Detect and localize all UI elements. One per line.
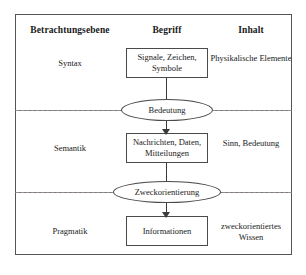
concept-box-semantik: Nachrichten, Daten, Mitteilungen <box>126 133 208 163</box>
transition-ellipse-bedeutung: Bedeutung <box>121 99 213 121</box>
connector-line-syntax-to-bedeutung <box>166 78 167 99</box>
connector-line-semantik-to-zweckorientierung <box>166 163 167 181</box>
column-header-begriff: Begriff <box>124 25 210 35</box>
semiotics-levels-diagram: Betrachtungsebene Begriff Inhalt Syntax … <box>0 0 306 275</box>
column-header-inhalt: Inhalt <box>210 25 292 35</box>
level-label-syntax: Syntax <box>16 58 124 68</box>
content-label-syntax: Physikalische Elemente <box>210 53 292 64</box>
column-header-betrachtungsebene: Betrachtungsebene <box>16 25 124 35</box>
concept-box-syntax: Signale, Zeichen, Symbole <box>126 48 208 78</box>
transition-ellipse-zweckorientierung: Zweckorientierung <box>113 181 221 203</box>
content-label-semantik: Sinn, Bedeutung <box>210 138 292 149</box>
concept-box-pragmatik: Informationen <box>126 216 208 246</box>
level-label-semantik: Semantik <box>16 143 124 153</box>
arrowhead-icon-into-pragmatik <box>162 212 170 218</box>
level-label-pragmatik: Pragmatik <box>16 226 124 236</box>
arrowhead-icon-into-semantik <box>162 129 170 135</box>
content-label-pragmatik: zweckorientiertes Wissen <box>210 221 292 243</box>
